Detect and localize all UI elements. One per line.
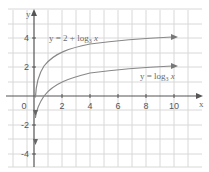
lower-curve-label: y = log3 x xyxy=(140,71,175,82)
svg-text:0: 0 xyxy=(21,101,26,111)
svg-text:10: 10 xyxy=(169,101,179,111)
grid xyxy=(8,9,202,167)
svg-text:8: 8 xyxy=(143,101,148,111)
upper-curve-label: y = 2 + log3 x xyxy=(49,33,98,44)
svg-text:4: 4 xyxy=(87,101,92,111)
svg-text:2: 2 xyxy=(24,62,29,72)
y-axis-label: y xyxy=(26,9,31,19)
curve-upper xyxy=(35,34,178,98)
svg-text:-2: -2 xyxy=(21,120,29,130)
svg-text:-4: -4 xyxy=(21,149,29,159)
y-axis-arrow-icon xyxy=(31,9,37,16)
log-function-chart: 0 2 4 6 8 10 4 2 -2 -4 y x y = 2 + log3 … xyxy=(0,0,209,172)
x-axis-label: x xyxy=(199,99,204,109)
svg-text:2: 2 xyxy=(59,101,64,111)
svg-text:6: 6 xyxy=(115,101,120,111)
svg-text:4: 4 xyxy=(24,33,29,43)
